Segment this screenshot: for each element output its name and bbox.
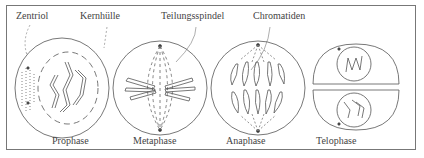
pointer-lines xyxy=(25,25,270,70)
label-anaphase: Anaphase xyxy=(226,135,265,146)
label-chromatids: Chromatiden xyxy=(253,10,305,21)
telophase-cell xyxy=(313,44,399,130)
label-metaphase: Metaphase xyxy=(133,135,176,146)
label-telophase: Telophase xyxy=(316,135,356,146)
metaphase-cell xyxy=(113,41,207,135)
prophase-cell xyxy=(15,38,109,138)
label-nuclear-envelope: Kernhülle xyxy=(80,10,120,21)
label-centriole: Zentriol xyxy=(16,10,48,21)
anaphase-cell xyxy=(211,41,305,135)
label-spindle: Teilungsspindel xyxy=(161,10,224,21)
label-prophase: Prophase xyxy=(52,135,89,146)
